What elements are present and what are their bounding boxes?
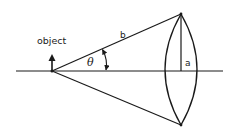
object-label: object	[37, 35, 67, 46]
upper-ray	[52, 14, 181, 71]
lens-aperture-diagram: object b a θ	[0, 0, 235, 135]
angle-label-theta: θ	[87, 56, 94, 69]
hypotenuse-label-b: b	[120, 30, 126, 40]
lens-bottom-vertex	[180, 124, 183, 127]
lower-ray	[52, 71, 181, 125]
angle-arc-icon	[103, 50, 107, 71]
half-aperture-label-a: a	[185, 58, 191, 68]
object-arrow-icon	[49, 54, 56, 70]
